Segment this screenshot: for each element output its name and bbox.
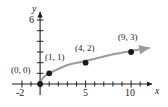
y-axis-label: y	[32, 4, 36, 14]
point-label-4-2: (4, 2)	[75, 44, 95, 53]
x-tick-label-5: 5	[83, 88, 88, 98]
y-tick-label-6: 6	[29, 15, 34, 25]
point-label-1-1: (1, 1)	[45, 53, 65, 62]
data-point	[37, 81, 43, 87]
graph-figure: y x -2 5 10 6 (0, 0) (1, 1) (4, 2) (9, 3…	[0, 0, 168, 107]
point-label-0-0: (0, 0)	[11, 66, 31, 75]
data-point	[83, 60, 89, 66]
x-tick-label-neg2: -2	[16, 88, 24, 98]
x-axis-label: x	[155, 86, 159, 96]
x-tick-label-10: 10	[125, 88, 135, 98]
point-label-9-3: (9, 3)	[118, 33, 138, 42]
data-point	[128, 49, 134, 55]
data-point	[46, 70, 52, 76]
